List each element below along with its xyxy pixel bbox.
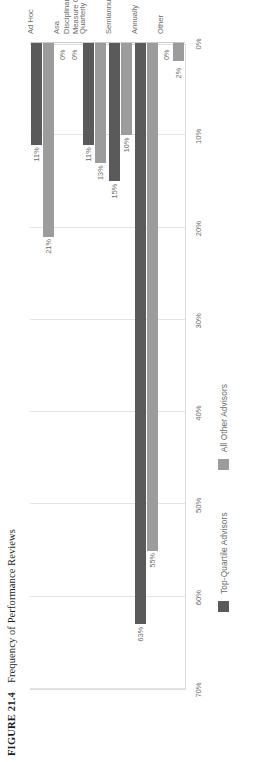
category-label: Asa Disciplinary Measure Only xyxy=(52,0,81,34)
legend-label-all-other: All Other Advisors xyxy=(219,384,229,452)
category-axis: Ad HocAsa Disciplinary Measure OnlyQuart… xyxy=(30,0,186,690)
legend-label-top-quartile: Top-Quartile Advisors xyxy=(219,512,229,594)
figure-number: FIGURE 21.4 xyxy=(6,692,17,756)
value-tick-10: 10% xyxy=(194,129,203,144)
category-label: Other xyxy=(156,0,166,34)
value-tick-0: 0% xyxy=(194,39,203,50)
category-label: Ad Hoc xyxy=(26,0,36,34)
figure-rotated-stage: FIGURE 21.4Frequency of Performance Revi… xyxy=(0,0,268,762)
value-tick-50: 50% xyxy=(194,498,203,513)
legend-swatch-top-quartile xyxy=(218,601,229,612)
figure-caption: FIGURE 21.4Frequency of Performance Revi… xyxy=(6,16,17,756)
category-label: Semiannually xyxy=(104,0,114,34)
category-label: Annually xyxy=(130,0,140,34)
value-tick-70: 70% xyxy=(194,682,203,697)
value-tick-40: 40% xyxy=(194,406,203,421)
value-tick-20: 20% xyxy=(194,221,203,236)
category-label: Quarterly xyxy=(78,0,88,34)
chart-legend: Top-Quartile Advisors All Other Advisors xyxy=(218,384,229,612)
value-tick-30: 30% xyxy=(194,313,203,328)
figure-caption-text: Frequency of Performance Reviews xyxy=(6,529,17,683)
legend-item-top-quartile: Top-Quartile Advisors xyxy=(218,512,229,612)
legend-swatch-all-other xyxy=(218,459,229,470)
value-tick-60: 60% xyxy=(194,590,203,605)
legend-item-all-other: All Other Advisors xyxy=(218,384,229,470)
